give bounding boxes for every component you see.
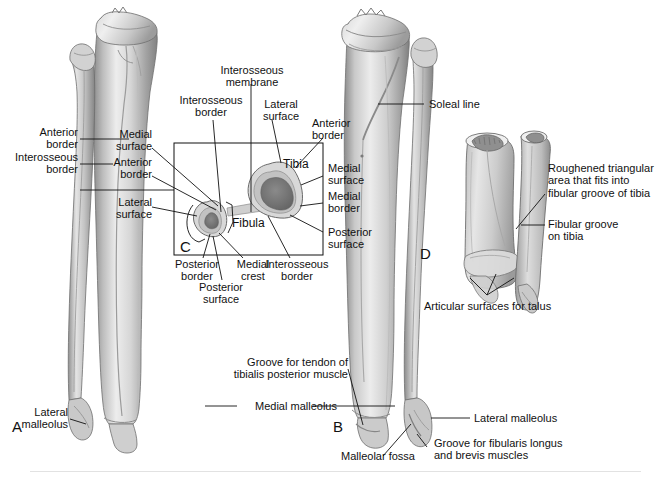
label-lateral-surface-c-top: Lateral surface (250, 98, 312, 123)
label-medial-surface-c-right: Medial surface (328, 162, 390, 187)
label-groove-fibularis: Groove for fibularis longus and brevis m… (434, 437, 604, 462)
label-anterior-border-c-right: Anterior border (312, 117, 372, 142)
figure-canvas: C (0, 0, 671, 482)
panel-d-letter: D (420, 245, 431, 262)
label-interosseous-membrane: Interosseous membrane (206, 64, 298, 89)
panel-b-letter: B (333, 418, 343, 435)
label-fibula: Fibula (232, 217, 276, 229)
label-interosseous-border-a: Interosseous border (0, 151, 78, 176)
label-interosseous-border-c-top: Interosseous border (168, 94, 254, 119)
label-posterior-border-c: Posterior border (162, 258, 232, 283)
label-lateral-malleolus-b: Lateral malleolus (474, 412, 584, 424)
label-groove-tibialis-posterior: Groove for tendon of tibialis posterior … (222, 356, 348, 381)
label-malleolar-fossa: Malleolar fossa (341, 450, 441, 462)
label-interosseous-border-c-bottom: Interosseous border (258, 258, 336, 283)
panel-a-letter: A (12, 418, 22, 435)
label-soleal-line: Soleal line (429, 98, 509, 110)
footer-divider (30, 471, 641, 472)
label-medial-malleolus: Medial malleolus (241, 400, 351, 412)
panel-d-bones (464, 131, 550, 313)
label-articular-surfaces-for-talus: Articular surfaces for talus (424, 300, 604, 312)
label-posterior-surface-c-right: Posterior surface (328, 226, 392, 251)
label-anterior-border-a: Anterior border (8, 126, 78, 151)
panel-c-letter: C (180, 238, 191, 255)
label-lateral-malleolus-a: Lateral malleolus (0, 406, 68, 431)
label-lateral-surface-c-left: Lateral surface (88, 196, 152, 221)
label-tibia: Tibia (283, 158, 323, 170)
label-fibular-groove-on-tibia: Fibular groove on tibia (548, 218, 658, 243)
label-medial-surface-c-left: Medial surface (88, 128, 152, 153)
label-posterior-surface-c-bottom: Posterior surface (184, 281, 258, 306)
panel-a-bones (68, 7, 157, 453)
label-anterior-border-c-left: Anterior border (88, 156, 152, 181)
label-medial-border-c-right: Medial border (328, 190, 390, 215)
label-roughened-triangular-area: Roughened triangular area that fits into… (548, 162, 671, 199)
